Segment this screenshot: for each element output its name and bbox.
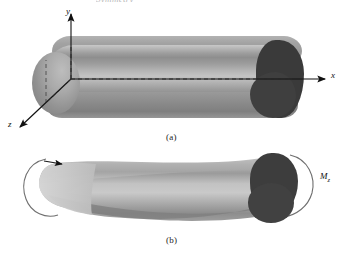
x-axis-label: x xyxy=(331,70,335,80)
moment-arrow-left-head[interactable] xyxy=(44,161,62,164)
panel-a: y x z (a) xyxy=(0,0,351,145)
z-axis-label: z xyxy=(8,119,12,129)
beam-b-left-light-segment xyxy=(39,163,96,215)
moment-label-letter: M xyxy=(320,171,328,181)
moment-label-mz: Mz xyxy=(320,171,330,183)
y-axis-label: y xyxy=(66,6,70,16)
beam-b-dark-end-cap-lower xyxy=(248,183,294,223)
figure-root: Symmetry xyxy=(0,0,351,262)
panel-b-caption: (b) xyxy=(166,235,177,245)
panel-a-overlay xyxy=(0,0,351,145)
panel-b: Mz (b) xyxy=(0,145,351,262)
panel-a-caption: (a) xyxy=(166,132,177,142)
moment-label-subscript: z xyxy=(328,176,331,183)
